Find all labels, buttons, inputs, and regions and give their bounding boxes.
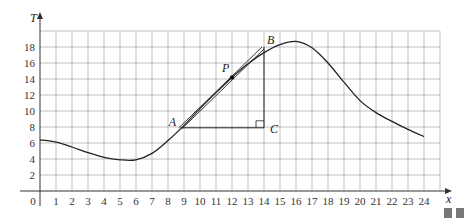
svg-text:4: 4	[30, 153, 36, 165]
svg-text:0: 0	[30, 195, 36, 207]
svg-text:P: P	[221, 61, 230, 75]
svg-text:20: 20	[355, 195, 367, 207]
svg-text:6: 6	[133, 195, 139, 207]
svg-text:12: 12	[227, 195, 238, 207]
svg-text:10: 10	[195, 195, 207, 207]
svg-text:18: 18	[323, 195, 335, 207]
svg-text:C: C	[270, 122, 279, 136]
svg-text:14: 14	[259, 195, 271, 207]
svg-text:16: 16	[291, 195, 303, 207]
svg-text:16: 16	[24, 57, 36, 69]
svg-text:5: 5	[117, 195, 123, 207]
svg-text:9: 9	[181, 195, 187, 207]
svg-text:22: 22	[387, 195, 398, 207]
svg-text:11: 11	[211, 195, 222, 207]
svg-text:17: 17	[307, 195, 319, 207]
svg-text:7: 7	[149, 195, 155, 207]
svg-text:2: 2	[69, 195, 75, 207]
svg-text:18: 18	[24, 41, 36, 53]
svg-text:12: 12	[24, 89, 35, 101]
x-axis-label: x	[445, 192, 452, 206]
svg-text:10: 10	[24, 105, 36, 117]
svg-text:14: 14	[24, 73, 36, 85]
svg-text:19: 19	[339, 195, 351, 207]
axes	[20, 12, 452, 206]
svg-text:4: 4	[101, 195, 107, 207]
svg-text:A: A	[168, 115, 177, 129]
svg-text:8: 8	[30, 121, 36, 133]
svg-text:23: 23	[403, 195, 415, 207]
svg-text:13: 13	[243, 195, 255, 207]
svg-text:1: 1	[53, 195, 59, 207]
annotations: ABCP	[168, 33, 279, 136]
grid	[40, 31, 440, 191]
svg-text:15: 15	[275, 195, 287, 207]
tangent-chart: 1234567891011121314151617181920212223240…	[0, 0, 471, 224]
svg-text:21: 21	[371, 195, 382, 207]
svg-text:3: 3	[85, 195, 91, 207]
svg-text:8: 8	[165, 195, 171, 207]
corner-mark-icon	[456, 208, 464, 218]
svg-text:B: B	[267, 33, 275, 47]
y-axis-label: T	[30, 11, 38, 25]
svg-text:6: 6	[30, 137, 36, 149]
svg-text:24: 24	[419, 195, 431, 207]
svg-text:2: 2	[30, 169, 36, 181]
corner-mark-icon	[444, 208, 452, 218]
